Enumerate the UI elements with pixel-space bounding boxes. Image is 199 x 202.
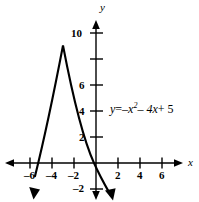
x-tick-label--4: –4 xyxy=(46,170,57,181)
x-axis-label: x xyxy=(188,157,193,168)
x-axis-arrow-left xyxy=(5,159,14,167)
curve-arrow-left xyxy=(29,187,40,200)
equation-term3: + 5 xyxy=(158,102,174,116)
x-tick-label--6: –6 xyxy=(24,170,35,181)
y-axis-label: y xyxy=(100,2,105,13)
equation-annotation: y=–x2– 4x+ 5 xyxy=(110,103,174,115)
y-axis-arrow-top xyxy=(92,20,100,29)
curve-arrow-right xyxy=(105,188,116,200)
x-tick-label-2: 2 xyxy=(115,170,121,181)
y-axis-arrow-bottom xyxy=(92,191,100,200)
x-axis-arrow-right xyxy=(174,159,183,167)
y-tick-label-10: 10 xyxy=(71,28,82,39)
y-tick-label-2: 2 xyxy=(79,132,85,143)
x-tick-label-6: 6 xyxy=(159,170,165,181)
y-tick-label-6: 6 xyxy=(79,80,85,91)
y-tick-label--2: –2 xyxy=(73,183,84,194)
x-tick-label-4: 4 xyxy=(137,170,143,181)
equation-term2: – 4x xyxy=(137,102,157,116)
y-tick-label-4: 4 xyxy=(79,106,85,117)
parabola-figure: –6 –4 –2 2 4 6 10 6 4 2 –2 y x y=–x2– 4x… xyxy=(0,0,199,202)
x-tick-label--2: –2 xyxy=(68,170,79,181)
